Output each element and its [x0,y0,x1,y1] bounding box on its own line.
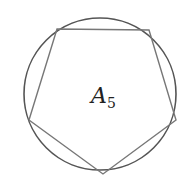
inscribed-pentagon-diagram: A5 [0,0,186,193]
label-subscript: 5 [107,95,116,111]
polygon-label: A5 [89,83,116,111]
label-main: A [89,83,107,108]
